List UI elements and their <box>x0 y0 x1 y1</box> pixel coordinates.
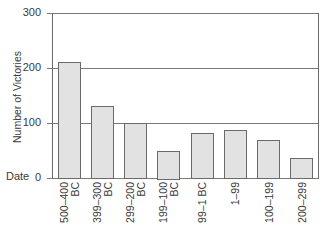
y-tick-label: 200 <box>11 61 41 73</box>
bar <box>225 131 247 179</box>
bar <box>125 124 147 179</box>
x-category-label-line: 1–99 <box>230 182 241 230</box>
bar <box>192 134 214 179</box>
bar <box>158 152 180 180</box>
y-tick-label: 300 <box>11 6 41 18</box>
x-category-label: 399–300BC <box>92 182 114 230</box>
bar <box>291 159 313 179</box>
y-tick-label: 0 <box>11 171 41 183</box>
bar <box>92 107 114 179</box>
x-category-label: 1–99 <box>230 182 241 230</box>
y-tick-label: 100 <box>11 116 41 128</box>
x-category-label-line: BC <box>136 182 147 230</box>
x-category-label: 299–200BC <box>125 182 147 230</box>
x-category-label-line: 99–1 BC <box>197 182 208 230</box>
x-category-label-line: 200–299 <box>297 182 308 230</box>
x-category-label-line: 500–400 <box>59 182 70 230</box>
bar <box>258 141 280 179</box>
x-category-label-line: BC <box>169 182 180 230</box>
x-category-label: 100–199 <box>264 182 275 230</box>
x-category-label: 199–100BC <box>158 182 180 230</box>
x-category-label-line: BC <box>70 182 81 230</box>
bar <box>59 63 81 179</box>
x-category-label: 99–1 BC <box>197 182 208 230</box>
x-category-label: 200–299 <box>297 182 308 230</box>
bar-chart: Number of Victories Date 0100200300 500–… <box>0 0 328 231</box>
x-category-label: 500–400BC <box>59 182 81 230</box>
x-category-label-line: 100–199 <box>264 182 275 230</box>
x-category-label-line: BC <box>103 182 114 230</box>
